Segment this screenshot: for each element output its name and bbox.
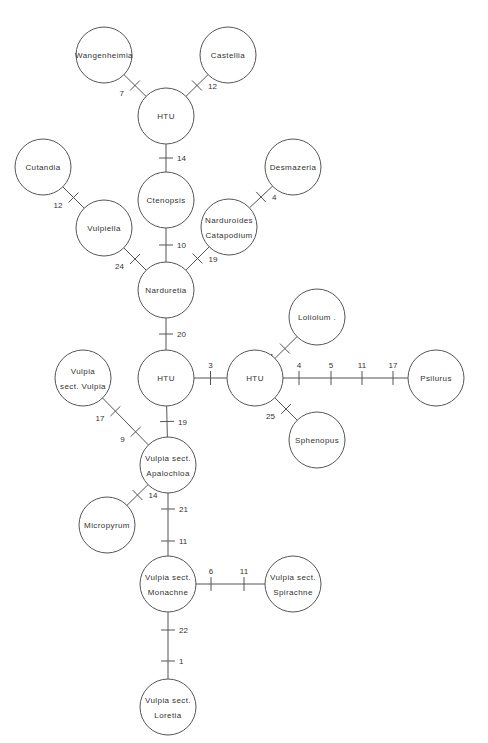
- edge-wangenheimia-to-htu-top: 7: [120, 75, 146, 98]
- node-circle: [55, 350, 111, 406]
- node-circle: [201, 199, 257, 255]
- edge-vulpia-sect-apalochloa-to-vulpia-sect-monachne: 2111: [161, 493, 188, 556]
- node-vulpia-sect-vulpia: Vulpiasect. Vulpia: [55, 350, 111, 406]
- edge-htu-middle-to-htu-right: 3: [194, 361, 227, 385]
- mutation-count-label: 11: [179, 537, 188, 546]
- node-sphenopus: Sphenopus: [289, 412, 345, 468]
- node-vulpiella: Vulpiella: [76, 200, 132, 256]
- node-label: Loliolum .: [298, 313, 336, 322]
- node-vulpia-sect-monachne: Vulpia sect.Monachne: [140, 556, 196, 612]
- node-label: Vulpiella: [87, 224, 121, 233]
- node-label: Wangenheimia: [75, 51, 133, 60]
- mutation-count-label: 20: [177, 330, 186, 339]
- edge-htu-right-to-psilurus: 451117: [283, 361, 408, 385]
- edge-vulpia-sect-monachne-to-vulpia-sect-loretia: 221: [161, 612, 188, 679]
- mutation-count-label: 19: [178, 418, 187, 427]
- mutation-count-label: 12: [54, 201, 63, 210]
- node-label: Catapodium: [205, 231, 252, 240]
- node-desmazeria: Desmazeria: [265, 139, 321, 195]
- mutation-count-label: 3: [208, 361, 213, 370]
- node-label: HTU: [157, 112, 175, 121]
- edge-desmazeria-to-narduroides-catapodium: 4: [249, 186, 277, 208]
- mutation-count-label: 12: [208, 82, 217, 91]
- node-label: Cutandia: [25, 163, 60, 172]
- edge-htu-middle-to-vulpia-sect-apalochloa: 19: [160, 406, 187, 437]
- node-circle: [140, 437, 196, 493]
- mutation-count-label: 7: [120, 89, 125, 98]
- mutation-count-label: 9: [120, 435, 125, 444]
- node-narduretia: Narduretia: [138, 262, 194, 318]
- node-label: Vulpia sect.: [145, 454, 191, 463]
- mutation-count-label: 22: [179, 626, 188, 635]
- mutation-count-label: 4: [272, 193, 277, 202]
- mutation-count-label: 10: [177, 241, 186, 250]
- edge-narduretia-to-htu-middle: 20: [159, 318, 186, 350]
- mutation-count-label: 11: [358, 361, 367, 370]
- node-circle: [265, 556, 321, 612]
- node-label: Apalochloa: [146, 469, 190, 478]
- node-circle: [140, 679, 196, 735]
- edge-ctenopsis-to-narduretia: 10: [159, 228, 186, 262]
- mutation-count-label: 19: [209, 255, 218, 264]
- node-label: Monachne: [148, 588, 189, 597]
- mutation-count-label: 11: [240, 567, 249, 576]
- node-label: Loretia: [154, 711, 181, 720]
- node-label: Micropyrum: [84, 521, 130, 530]
- node-label: Ctenopsis: [146, 196, 185, 205]
- mutation-count-label: 17: [389, 361, 398, 370]
- mutation-count-label: 4: [297, 361, 302, 370]
- node-psilurus: Psilurus: [408, 350, 464, 406]
- mutation-count-label: 25: [266, 412, 275, 421]
- nodes-layer: WangenheimiaCastelliaHTUCutandiaDesmazer…: [15, 27, 464, 735]
- node-label: Desmazeria: [270, 163, 317, 172]
- node-castellia: Castellia: [200, 27, 256, 83]
- node-htu-middle: HTU: [138, 350, 194, 406]
- node-label: Vulpia sect.: [145, 573, 191, 582]
- node-vulpia-sect-loretia: Vulpia sect.Loretia: [140, 679, 196, 735]
- node-wangenheimia: Wangenheimia: [75, 27, 133, 83]
- mutation-count-label: 17: [96, 414, 105, 423]
- mutation-count-label: 1: [179, 657, 184, 666]
- node-label: sect. Vulpia: [60, 382, 106, 391]
- mutation-count-label: 6: [209, 567, 214, 576]
- phylogenetic-network-diagram: 7121412410241920311254511171917914211161…: [0, 0, 488, 743]
- edge-vulpia-sect-vulpia-to-vulpia-sect-apalochloa: 179: [96, 398, 149, 445]
- mutation-count-label: 14: [149, 491, 158, 500]
- node-circle: [140, 556, 196, 612]
- mutation-count-label: 21: [179, 505, 188, 514]
- node-htu-top: HTU: [138, 88, 194, 144]
- node-label: Psilurus: [420, 374, 452, 383]
- node-label: Narduroides: [205, 216, 253, 225]
- node-label: HTU: [157, 374, 175, 383]
- mutation-count-label: 14: [177, 154, 186, 163]
- node-label: Castellia: [211, 51, 245, 60]
- node-htu-right: HTU: [227, 350, 283, 406]
- node-ctenopsis: Ctenopsis: [138, 172, 194, 228]
- node-label: Vulpia sect.: [270, 573, 316, 582]
- edge-htu-top-to-ctenopsis: 14: [159, 144, 186, 172]
- node-cutandia: Cutandia: [15, 139, 71, 195]
- node-label: Narduretia: [145, 286, 187, 295]
- node-label: HTU: [246, 374, 264, 383]
- edge-line: [103, 398, 149, 445]
- mutation-count-label: 24: [115, 262, 124, 271]
- edge-line: [275, 337, 297, 359]
- edge-vulpia-sect-monachne-to-vulpia-sect-spirachne: 611: [196, 567, 265, 591]
- node-label: Spirachne: [273, 588, 313, 597]
- node-vulpia-sect-spirachne: Vulpia sect.Spirachne: [265, 556, 321, 612]
- node-narduroides-catapodium: NarduroidesCatapodium: [201, 199, 257, 255]
- node-loliolum: Loliolum .: [289, 289, 345, 345]
- node-label: Vulpia: [71, 367, 95, 376]
- node-micropyrum: Micropyrum: [79, 497, 135, 553]
- mutation-count-label: 5: [329, 361, 334, 370]
- node-label: Sphenopus: [295, 436, 339, 445]
- node-vulpia-sect-apalochloa: Vulpia sect.Apalochloa: [140, 437, 196, 493]
- node-label: Vulpia sect.: [145, 696, 191, 705]
